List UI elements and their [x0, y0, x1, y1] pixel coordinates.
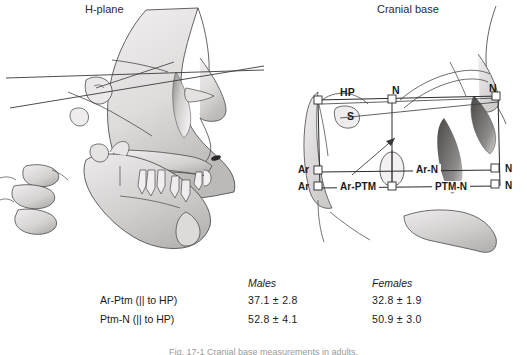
row-value-ar-ptm-females: 32.8 ± 1.9: [372, 294, 492, 306]
row-value-ptm-n-females: 50.9 ± 3.0: [372, 313, 492, 325]
label-n-top-left: N: [392, 84, 400, 96]
label-n-right-lower: N: [505, 180, 512, 191]
row-label-ar-ptm: Ar-Ptm (|| to HP): [100, 294, 250, 306]
label-n-top-right: N: [489, 82, 497, 94]
label-ar-ptm: Ar-PTM: [337, 181, 379, 192]
label-hp: HP: [340, 86, 355, 98]
row-value-ar-ptm-males: 37.1 ± 2.8: [248, 294, 368, 306]
column-header-females: Females: [372, 277, 492, 289]
row-label-ptm-n: Ptm-N (|| to HP): [100, 313, 250, 325]
h-plane-tracing: [0, 8, 264, 249]
figure-caption: Fig. 17-1 Cranial base measurements in a…: [0, 347, 527, 355]
label-ptm-n: PTM-N: [432, 181, 470, 192]
label-s: S: [347, 110, 354, 122]
label-ar-upper: Ar: [298, 164, 309, 175]
row-value-ptm-n-males: 52.8 ± 4.1: [248, 313, 368, 325]
measurements-table: Males Females Ar-Ptm (|| to HP) 37.1 ± 2…: [0, 277, 527, 339]
label-n-right-upper: N: [505, 163, 512, 174]
figure-root: H-plane Cranial base: [0, 0, 527, 355]
label-ar-n: Ar-N: [413, 164, 441, 175]
label-ar-lower: Ar: [298, 181, 309, 192]
cranial-base-tracing: [304, 6, 506, 252]
column-header-males: Males: [248, 277, 368, 289]
